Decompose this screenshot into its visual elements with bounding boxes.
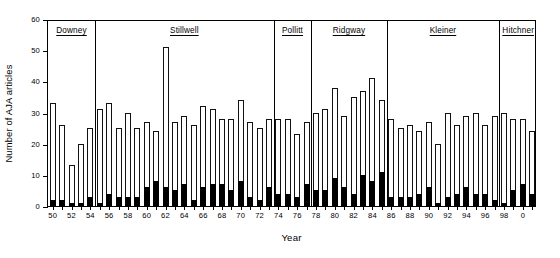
x-axis-tick [62,206,63,210]
bar [50,103,56,206]
plot-area: 0102030405060505254565860626466687072747… [47,20,536,207]
x-axis-tick-label: 80 [330,212,339,220]
x-axis-tick-label: 0 [521,212,525,220]
x-axis-tick [147,206,148,210]
y-axis-tick-label: 60 [31,16,40,24]
x-axis-tick [278,206,279,210]
y-axis-tick [43,20,48,21]
y-axis-tick-label: 20 [31,141,40,149]
bar [445,113,451,207]
bar-subsegment [322,190,328,206]
bar-subsegment [482,194,488,206]
bar [285,119,291,206]
bar-subsegment [304,184,310,206]
bar-subsegment [172,190,178,206]
bar-subsegment [454,194,460,206]
x-axis-tick [504,206,505,210]
x-axis-tick [429,206,430,210]
bar-subsegment [388,197,394,206]
x-axis-tick [260,206,261,210]
bar-subsegment [266,187,272,206]
bar-subsegment [238,181,244,206]
x-axis-tick-label: 54 [86,212,95,220]
x-axis-tick [269,206,270,210]
bar [97,109,103,206]
bar-subsegment [144,187,150,206]
x-axis-tick-label: 58 [123,212,132,220]
bar [398,128,404,206]
bar [379,100,385,206]
bar-subsegment [153,181,159,206]
x-axis-tick [166,206,167,210]
x-axis-title: Year [47,232,536,243]
bar-subsegment [463,187,469,206]
bar [304,122,310,206]
y-axis-tick [43,207,48,208]
editor-label-pollitt: Pollitt [282,26,303,35]
bar [369,78,375,206]
bar [257,128,263,206]
x-axis-tick-label: 70 [236,212,245,220]
x-axis-tick [53,206,54,210]
y-axis-tick-label: 50 [31,47,40,55]
bar-subsegment [200,187,206,206]
x-axis-tick-label: 60 [142,212,151,220]
bar [200,106,206,206]
x-axis-tick [485,206,486,210]
bar [351,97,357,206]
bar-subsegment [369,181,375,206]
x-axis-tick-label: 50 [48,212,57,220]
bar-subsegment [210,184,216,206]
x-axis-tick [119,206,120,210]
x-axis-tick [250,206,251,210]
x-axis-tick-label: 64 [180,212,189,220]
x-axis-tick [194,206,195,210]
editor-label-downey: Downey [56,26,86,35]
x-axis-tick-label: 86 [387,212,396,220]
bar-subsegment [416,194,422,206]
bar-subsegment [106,194,112,206]
editor-divider [387,20,388,207]
bar [473,113,479,207]
x-axis-tick [523,206,524,210]
bar [181,116,187,206]
bar [144,122,150,206]
bar [332,88,338,206]
x-axis-tick [354,206,355,210]
bar [219,119,225,206]
bar [463,116,469,206]
x-axis-tick [241,206,242,210]
y-axis-tick-label: 10 [31,172,40,180]
bar [388,119,394,206]
bar [266,119,272,206]
bar [228,119,234,206]
x-axis-tick-label: 78 [312,212,321,220]
bar-subsegment [379,172,385,206]
bar-subsegment [360,175,366,206]
x-axis-tick [297,206,298,210]
bar [153,131,159,206]
x-axis-tick [513,206,514,210]
bar-subsegment [313,190,319,206]
bar-subsegment [332,178,338,206]
bar-subsegment [294,197,300,206]
editor-label-hitchner: Hitchner [502,26,534,35]
x-axis-tick [128,206,129,210]
bar [454,125,460,206]
bar-subsegment [445,197,451,206]
bar [163,47,169,206]
x-axis-tick-label: 98 [500,212,509,220]
bar-subsegment [426,187,432,206]
y-axis-tick-label: 40 [31,78,40,86]
bar [87,128,93,206]
x-axis-tick [438,206,439,210]
bar-subsegment [116,197,122,206]
bar-subsegment [275,194,281,206]
x-axis-tick [213,206,214,210]
x-axis-tick [325,206,326,210]
y-axis-tick [43,114,48,115]
editor-divider [274,20,275,207]
bar-subsegment [473,194,479,206]
x-axis-tick [448,206,449,210]
bar [407,125,413,206]
